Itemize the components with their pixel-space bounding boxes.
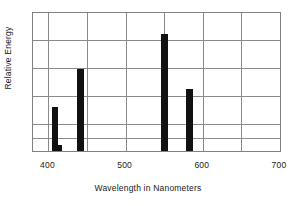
plot-area: [32, 12, 281, 152]
gridline-horizontal-2: [33, 124, 280, 125]
gridline-vertical-600: [203, 13, 204, 151]
gridline-vertical-450: [87, 13, 88, 151]
bar-437nm: [77, 69, 84, 151]
x-tick-label-400: 400: [27, 160, 67, 170]
y-axis-title: Relative Energy: [3, 3, 13, 113]
gridline-vertical-650: [241, 13, 242, 151]
bar-546nm: [161, 34, 168, 151]
bar-578nm: [186, 89, 193, 151]
gridline-vertical-500: [126, 13, 127, 151]
x-tick-label-500: 500: [105, 160, 145, 170]
x-tick-label-600: 600: [182, 160, 222, 170]
x-axis-title: Wavelength in Nanometers: [0, 183, 296, 193]
gridline-horizontal-4: [33, 68, 280, 69]
gridline-horizontal-3: [33, 96, 280, 97]
gridline-horizontal-5: [33, 40, 280, 41]
bar-411nm: [57, 145, 62, 151]
gridline-horizontal-1: [33, 138, 280, 139]
x-tick-label-700: 700: [259, 160, 296, 170]
spectral-emission-chart: 400 500 600 700 Wavelength in Nanometers…: [0, 0, 296, 206]
gridline-vertical-400: [48, 13, 49, 151]
